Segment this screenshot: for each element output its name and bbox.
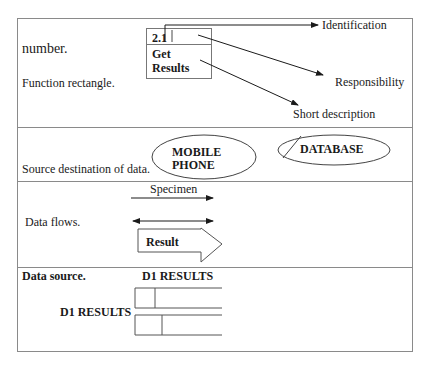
result-block-arrow — [138, 228, 222, 262]
diagram-shapes — [0, 0, 431, 369]
entity-database-ellipse — [278, 135, 390, 165]
entity-mobile-phone-ellipse — [152, 135, 256, 179]
data-store-1 — [135, 288, 222, 308]
data-store-2 — [135, 315, 222, 335]
responsibility-arrow — [198, 35, 323, 75]
duplicate-entity-slash — [283, 136, 301, 158]
short-description-arrow — [200, 60, 298, 105]
identification-arrow — [165, 25, 318, 42]
